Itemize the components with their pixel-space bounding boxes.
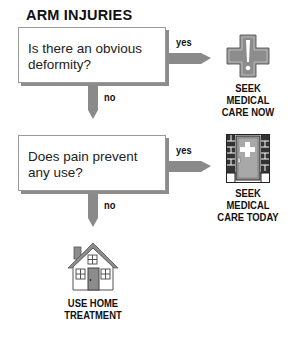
outcome-home-treatment: USE HOME TREATMENT: [59, 297, 126, 321]
outcome-line: SEEK: [215, 187, 281, 199]
no-label-2: no: [104, 199, 115, 211]
medical-cross-exclamation-icon: [226, 34, 270, 78]
outcome-care-now: SEEK MEDICAL CARE NOW: [218, 82, 277, 118]
outcome-line: CARE NOW: [218, 106, 277, 118]
no-arrow-1-icon: [87, 86, 99, 120]
question-text-1: Is there an obvious deformity?: [28, 41, 163, 73]
yes-label-1: yes: [176, 36, 192, 48]
yes-label-2: yes: [176, 144, 192, 156]
outcome-care-today: SEEK MEDICAL CARE TODAY: [215, 187, 281, 223]
clinic-door-icon: [226, 134, 270, 184]
outcome-line: MEDICAL: [218, 94, 277, 106]
outcome-line: MEDICAL: [215, 199, 281, 211]
outcome-line: CARE TODAY: [215, 211, 281, 223]
outcome-line: TREATMENT: [59, 309, 126, 321]
outcome-line: SEEK: [218, 82, 277, 94]
house-icon: [67, 240, 119, 292]
no-label-1: no: [104, 91, 115, 103]
question-text-2: Does pain prevent any use?: [28, 149, 163, 181]
yes-arrow-1-icon: [169, 52, 213, 66]
yes-arrow-2-icon: [169, 160, 213, 174]
no-arrow-2-icon: [87, 194, 99, 228]
page-title: ARM INJURIES: [26, 7, 132, 23]
question-box-1: Is there an obvious deformity?: [18, 27, 166, 83]
question-box-2: Does pain prevent any use?: [18, 135, 166, 191]
outcome-line: USE HOME: [59, 297, 126, 309]
